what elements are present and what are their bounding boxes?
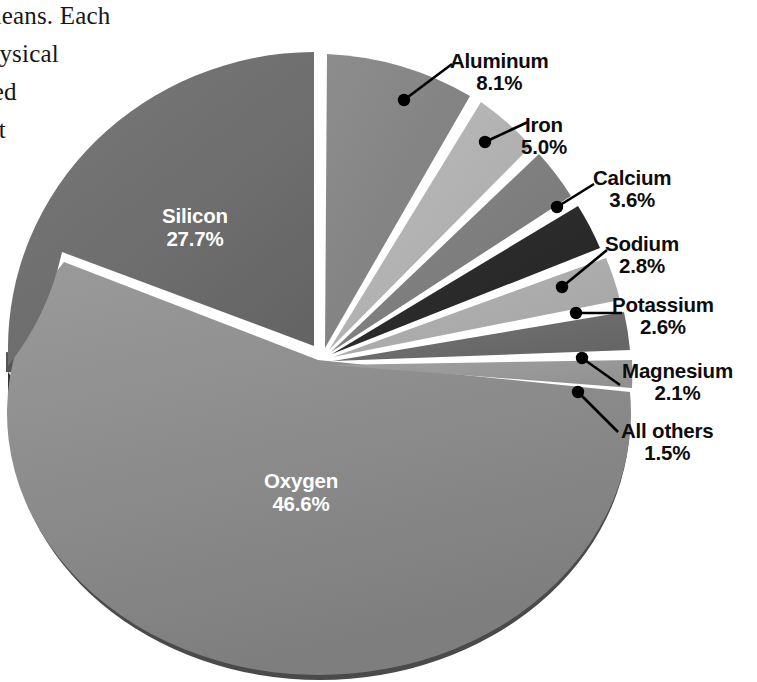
leader-dot-calcium bbox=[551, 201, 563, 213]
pie-label-iron-value: 5.0% bbox=[521, 136, 567, 158]
pie-label-silicon: Silicon 27.7% bbox=[130, 205, 260, 250]
pie-label-silicon-name: Silicon bbox=[130, 205, 260, 228]
pie-label-magnesium: Magnesium 2.1% bbox=[622, 360, 733, 403]
leader-dot-all-others bbox=[572, 386, 584, 398]
pie-label-magnesium-name: Magnesium bbox=[622, 360, 733, 382]
pie-label-potassium: Potassium 2.6% bbox=[612, 294, 714, 337]
pie-label-all-others-value: 1.5% bbox=[621, 442, 714, 464]
pie-label-aluminum-name: Aluminum bbox=[450, 50, 549, 72]
leader-dot-magnesium bbox=[576, 352, 588, 364]
pie-label-iron: Iron 5.0% bbox=[521, 114, 567, 157]
pie-label-sodium-value: 2.8% bbox=[605, 255, 679, 277]
figure-canvas: means. Each physical used ost . . bbox=[0, 0, 757, 682]
pie-label-all-others-name: All others bbox=[621, 420, 714, 442]
pie-label-calcium-value: 3.6% bbox=[593, 189, 671, 211]
pie-label-all-others: All others 1.5% bbox=[621, 420, 714, 463]
leader-dot-iron bbox=[479, 136, 491, 148]
pie-label-magnesium-value: 2.1% bbox=[622, 382, 733, 404]
pie-label-potassium-name: Potassium bbox=[612, 294, 714, 316]
pie-chart bbox=[0, 0, 757, 682]
pie-label-aluminum: Aluminum 8.1% bbox=[450, 50, 549, 93]
leader-dot-potassium bbox=[570, 307, 582, 319]
pie-label-calcium-name: Calcium bbox=[593, 167, 671, 189]
pie-label-potassium-value: 2.6% bbox=[612, 316, 714, 338]
pie-label-oxygen-name: Oxygen bbox=[236, 470, 366, 493]
leader-dot-sodium bbox=[556, 281, 568, 293]
pie-label-aluminum-value: 8.1% bbox=[450, 72, 549, 94]
pie-label-iron-name: Iron bbox=[521, 114, 567, 136]
leader-dot-aluminum bbox=[398, 94, 410, 106]
pie-label-calcium: Calcium 3.6% bbox=[593, 167, 671, 210]
pie-label-sodium-name: Sodium bbox=[605, 233, 679, 255]
pie-label-silicon-value: 27.7% bbox=[130, 228, 260, 251]
pie-label-oxygen: Oxygen 46.6% bbox=[236, 470, 366, 515]
pie-label-sodium: Sodium 2.8% bbox=[605, 233, 679, 276]
pie-label-oxygen-value: 46.6% bbox=[236, 493, 366, 516]
